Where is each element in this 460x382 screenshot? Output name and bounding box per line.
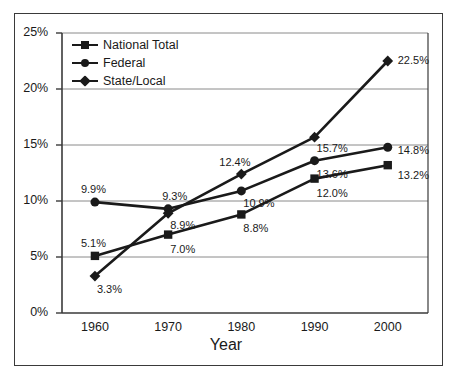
data-point-label: 13.6%: [317, 168, 348, 180]
x-tick-label: 1990: [285, 320, 345, 334]
data-point-label: 14.8%: [398, 144, 429, 156]
legend-item-federal: Federal: [72, 54, 202, 71]
data-point-label: 9.9%: [81, 183, 106, 195]
x-tick-label: 1980: [211, 320, 271, 334]
data-point-label: 15.7%: [317, 142, 348, 154]
tick-marks: [56, 33, 62, 313]
data-point-label: 22.5%: [398, 54, 429, 66]
data-point-label: 9.3%: [162, 190, 187, 202]
data-point-label: 12.0%: [317, 187, 348, 199]
data-point-label: 5.1%: [81, 237, 106, 249]
data-point-label: 8.9%: [170, 219, 195, 231]
data-point-label: 10.9%: [243, 197, 274, 209]
legend-item-national-total: National Total: [72, 36, 202, 53]
legend-marker-diamond-icon: [72, 74, 98, 88]
data-point-label: 8.8%: [243, 222, 268, 234]
data-point-label: 13.2%: [398, 169, 429, 181]
legend: National Total Federal State/Local: [72, 36, 202, 88]
x-tick-label: 2000: [358, 320, 418, 334]
y-tick-label: 5%: [8, 249, 48, 263]
x-axis-title: Year: [166, 336, 286, 354]
legend-item-state-local: State/Local: [72, 72, 202, 89]
legend-label-national-total: National Total: [103, 38, 179, 52]
chart-figure: 0%5%10%15%20%25% 19601970198019902000 Ye…: [0, 0, 460, 382]
data-point-label: 7.0%: [170, 243, 195, 255]
data-point-label: 12.4%: [219, 156, 250, 168]
legend-label-state-local: State/Local: [103, 74, 166, 88]
data-point-label: 3.3%: [97, 283, 122, 295]
legend-label-federal: Federal: [103, 56, 145, 70]
y-tick-label: 10%: [8, 193, 48, 207]
y-tick-label: 0%: [8, 305, 48, 319]
x-tick-label: 1970: [138, 320, 198, 334]
x-tick-label: 1960: [65, 320, 125, 334]
y-tick-label: 25%: [8, 25, 48, 39]
legend-marker-circle-icon: [72, 56, 98, 70]
y-tick-label: 15%: [8, 137, 48, 151]
legend-marker-square-icon: [72, 38, 98, 52]
y-tick-label: 20%: [8, 81, 48, 95]
